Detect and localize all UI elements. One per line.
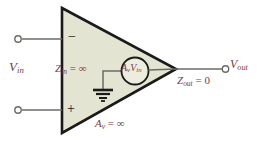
output-terminal [222,66,228,72]
label-z-out: Zout = 0 [177,75,210,87]
label-v-out-subscript: out [237,63,247,72]
opamp-ideal-model-figure: Vin Zin = ∞ AvVin Zout = 0 Vout Av = ∞ −… [0,0,259,142]
inverting-input-terminal [15,36,21,42]
source-to-output-wire [149,69,177,70]
inverting-input-sign: − [68,30,76,44]
label-z-in-value: ∞ [79,62,87,74]
label-a-v: Av = ∞ [95,118,125,130]
label-z-in-operator: = [67,62,79,74]
label-dependent-source-expression: AvVin [121,63,142,74]
noninverting-input-sign: + [67,102,75,116]
label-a-v-operator: = [105,117,117,129]
label-z-in: Zin = ∞ [55,63,87,75]
label-z-out-value: 0 [204,74,210,86]
noninverting-input-terminal [15,107,21,113]
label-source-v-subscript: in [136,66,141,73]
label-v-in-subscript: in [17,65,24,75]
label-z-out-operator: = [193,74,205,86]
label-a-v-base: A [95,117,102,129]
label-a-v-value: ∞ [117,117,125,129]
label-v-in-base: V [9,59,17,74]
label-z-out-subscript: out [183,79,193,88]
label-v-in: Vin [9,60,24,75]
label-v-out: Vout [230,58,248,72]
